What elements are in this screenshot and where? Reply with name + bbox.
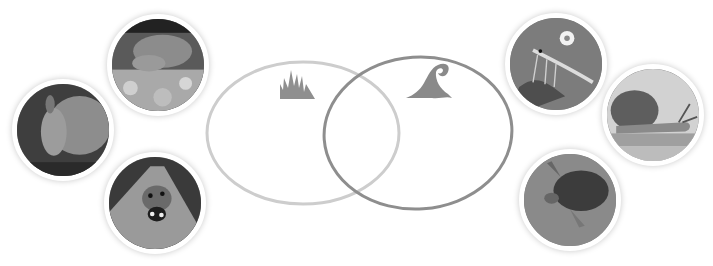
- photo-crab: crab: [107, 14, 209, 116]
- armadillo-image: [17, 84, 109, 176]
- snail-image: [607, 69, 699, 161]
- grass-icon: [280, 70, 315, 99]
- venn-circle-water: [319, 51, 517, 216]
- shrimp-image: [510, 18, 602, 110]
- photo-turtle: turtle: [519, 149, 621, 251]
- wave-icon: [406, 64, 452, 99]
- crab-image: [112, 19, 204, 111]
- photo-snail: snail: [602, 64, 704, 166]
- ladybug-image: [109, 157, 201, 249]
- venn-circle-land: [207, 62, 399, 204]
- photo-shrimp: shrimp: [505, 13, 607, 115]
- turtle-image: [524, 154, 616, 246]
- photo-armadillo: armadillo: [12, 79, 114, 181]
- photo-ladybug: ladybug: [104, 152, 206, 254]
